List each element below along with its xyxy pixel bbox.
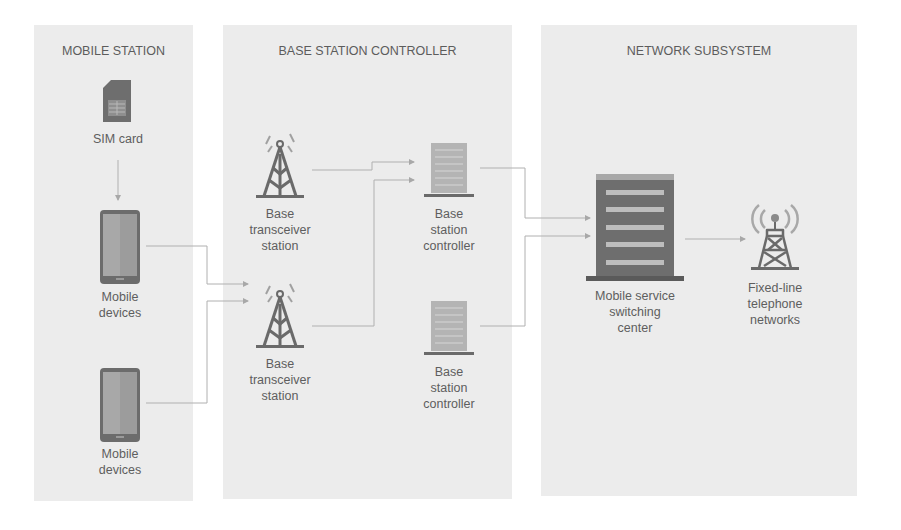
cell-tower-icon xyxy=(252,132,308,200)
connector-bsc2-to-msc xyxy=(480,236,590,326)
connector-bts1-to-bsc1 xyxy=(312,162,414,170)
fixed-line-label: Fixed-line telephone networks xyxy=(748,280,803,328)
bts-label: Base transceiver station xyxy=(249,356,310,404)
radio-tower-icon xyxy=(747,202,803,272)
bsc-label: Base station controller xyxy=(423,364,474,412)
building-icon xyxy=(586,174,684,282)
connector-mobile1-to-bts2 xyxy=(146,246,248,284)
connector-bts2-to-bsc1 xyxy=(312,180,414,326)
cell-tower-icon xyxy=(252,282,308,350)
smartphone-icon xyxy=(100,210,140,284)
smartphone-icon xyxy=(100,368,140,442)
server-icon xyxy=(424,143,474,199)
connector-mobile2-to-bts2 xyxy=(146,301,248,403)
server-icon xyxy=(424,301,474,357)
mobile-devices-label: Mobile devices xyxy=(99,289,141,321)
bsc-label: Base station controller xyxy=(423,206,474,254)
sim-card-label: SIM card xyxy=(93,131,143,147)
sim-card-icon xyxy=(103,80,133,122)
msc-label: Mobile service switching center xyxy=(595,288,675,336)
mobile-devices-label: Mobile devices xyxy=(99,446,141,478)
bts-label: Base transceiver station xyxy=(249,206,310,254)
connector-bsc1-to-msc xyxy=(480,168,590,218)
